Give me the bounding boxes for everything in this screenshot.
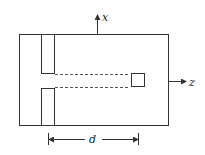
upper-slit-bar	[42, 35, 55, 74]
slit-diagram: x z d	[0, 0, 205, 155]
dimension-label: d	[89, 133, 96, 146]
z-axis-label: z	[188, 76, 195, 89]
x-axis-label: x	[102, 11, 109, 24]
lower-slit-bar	[42, 89, 55, 126]
detector-square	[132, 74, 145, 87]
